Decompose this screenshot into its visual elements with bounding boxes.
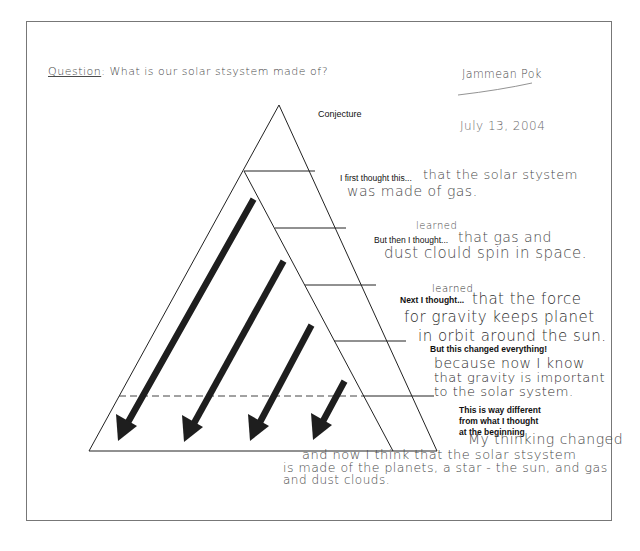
response-2-line-2: dust clould spin in space. — [384, 244, 587, 262]
question-line: Question: What is our solar stsystem mad… — [48, 65, 328, 78]
prompt-way-different-1: This is way different — [459, 405, 541, 415]
prompt-next-thought: Next I thought... — [400, 295, 464, 305]
down-left-arrow-icon — [248, 328, 310, 441]
response-3-line-1: that the force — [472, 290, 581, 308]
response-4-line-1: because now I know — [434, 355, 585, 371]
response-2-insert: learned — [416, 220, 457, 231]
response-1-line-2: was made of gas. — [347, 183, 478, 199]
response-2-line-1: that gas and — [458, 229, 552, 245]
question-label: Question — [48, 65, 101, 78]
date: July 13, 2004 — [460, 119, 545, 133]
response-3-insert: learned — [432, 283, 473, 294]
response-5-line-4: and dust clouds. — [283, 473, 390, 487]
response-3-line-3: in orbit around the sun. — [418, 327, 607, 345]
response-3-line-2: for gravity keeps planet — [404, 308, 595, 326]
response-4-line-2: that gravity is important — [434, 370, 605, 385]
question-text: : What is our solar stsystem made of? — [101, 65, 328, 78]
prompt-changed-everything: But this changed everything! — [430, 344, 547, 354]
diagram-title: Conjecture — [318, 109, 362, 119]
down-left-arrow-icon — [311, 384, 343, 440]
response-1-line-1: that the solar stystem — [423, 167, 578, 182]
student-name: Jammean Pok — [462, 66, 542, 81]
signature-underline — [458, 83, 532, 95]
prompt-way-different-2: from what I thought — [459, 416, 538, 426]
response-4-line-3: to the solar system. — [434, 384, 574, 399]
response-5-line-1: My thinking changed — [468, 431, 623, 447]
down-left-arrow-icon — [116, 202, 252, 441]
prompt-first-thought: I first thought this... — [340, 173, 412, 183]
